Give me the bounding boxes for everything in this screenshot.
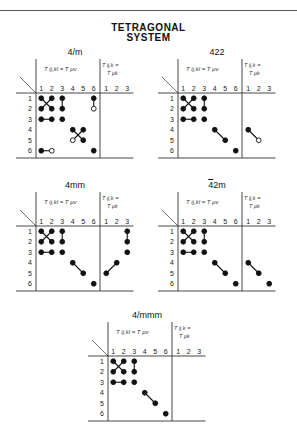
matrix-diagram: T ij,kl = T μνT ij,k =T μk12345612312345… bbox=[10, 180, 140, 298]
svg-text:2: 2 bbox=[28, 238, 32, 245]
filled-dot bbox=[60, 96, 65, 101]
filled-dot bbox=[49, 117, 54, 122]
svg-text:1: 1 bbox=[246, 218, 250, 225]
filled-dot bbox=[132, 369, 137, 374]
filled-dot bbox=[70, 260, 75, 265]
svg-text:2: 2 bbox=[122, 348, 126, 355]
top-rule bbox=[0, 10, 297, 11]
filled-dot bbox=[191, 117, 196, 122]
svg-text:5: 5 bbox=[28, 270, 32, 277]
filled-dot bbox=[153, 401, 158, 406]
svg-text:1: 1 bbox=[176, 348, 180, 355]
filled-dot bbox=[256, 271, 261, 276]
svg-text:1: 1 bbox=[246, 85, 250, 92]
title-line-2: SYSTEM bbox=[0, 32, 297, 43]
svg-text:3: 3 bbox=[202, 218, 206, 225]
filled-dot bbox=[104, 271, 109, 276]
svg-text:5: 5 bbox=[170, 270, 174, 277]
svg-text:2: 2 bbox=[115, 85, 119, 92]
svg-text:3: 3 bbox=[197, 348, 201, 355]
filled-dot bbox=[233, 148, 238, 153]
filled-dot bbox=[223, 138, 228, 143]
svg-text:1: 1 bbox=[181, 85, 185, 92]
svg-text:4: 4 bbox=[213, 218, 217, 225]
open-dot bbox=[256, 138, 261, 143]
svg-text:5: 5 bbox=[223, 218, 227, 225]
open-dot bbox=[91, 106, 96, 111]
panel-4: 4/mmmT ij,kl = T μνT ij,k =T μk123456123… bbox=[82, 310, 212, 428]
open-dot bbox=[70, 138, 75, 143]
matrix-diagram: T ij,kl = T μνT ij,k =T μk12345612312345… bbox=[10, 47, 140, 165]
svg-text:6: 6 bbox=[92, 218, 96, 225]
panel-2: 4mmT ij,kl = T μνT ij,k =T μk12345612312… bbox=[10, 180, 140, 298]
svg-text:T μk: T μk bbox=[179, 333, 190, 339]
svg-text:3: 3 bbox=[28, 116, 32, 123]
panel-1: 422T ij,kl = T μνT ij,k =T μk12345612312… bbox=[152, 47, 282, 165]
filled-dot bbox=[81, 127, 86, 132]
svg-text:2: 2 bbox=[257, 218, 261, 225]
svg-text:4: 4 bbox=[28, 259, 32, 266]
filled-dot bbox=[181, 117, 186, 122]
svg-text:T μk: T μk bbox=[249, 203, 260, 209]
filled-dot bbox=[233, 281, 238, 286]
filled-dot bbox=[267, 281, 272, 286]
svg-text:3: 3 bbox=[100, 379, 104, 386]
svg-text:3: 3 bbox=[170, 249, 174, 256]
svg-text:2: 2 bbox=[28, 105, 32, 112]
filled-dot bbox=[91, 96, 96, 101]
filled-dot bbox=[81, 138, 86, 143]
filled-dot bbox=[60, 229, 65, 234]
filled-dot bbox=[121, 369, 126, 374]
svg-text:T ij,kl = T μν: T ij,kl = T μν bbox=[186, 199, 218, 205]
svg-text:6: 6 bbox=[92, 85, 96, 92]
svg-text:3: 3 bbox=[132, 348, 136, 355]
svg-text:6: 6 bbox=[234, 85, 238, 92]
svg-text:3: 3 bbox=[60, 85, 64, 92]
svg-text:2: 2 bbox=[50, 218, 54, 225]
filled-dot bbox=[202, 96, 207, 101]
filled-dot bbox=[111, 369, 116, 374]
filled-dot bbox=[163, 411, 168, 416]
filled-dot bbox=[246, 127, 251, 132]
svg-text:4: 4 bbox=[71, 218, 75, 225]
svg-text:2: 2 bbox=[115, 218, 119, 225]
svg-text:T ij,kl = T μν: T ij,kl = T μν bbox=[186, 66, 218, 72]
matrix-diagram: T ij,kl = T μνT ij,k =T μk12345612312345… bbox=[82, 310, 212, 428]
svg-text:1: 1 bbox=[28, 95, 32, 102]
svg-text:3: 3 bbox=[28, 249, 32, 256]
svg-text:6: 6 bbox=[170, 280, 174, 287]
filled-dot bbox=[202, 239, 207, 244]
svg-text:T ij,k =: T ij,k = bbox=[244, 195, 261, 201]
svg-text:4: 4 bbox=[100, 389, 104, 396]
svg-text:2: 2 bbox=[170, 238, 174, 245]
svg-text:2: 2 bbox=[170, 105, 174, 112]
svg-text:4: 4 bbox=[143, 348, 147, 355]
filled-dot bbox=[39, 250, 44, 255]
svg-text:2: 2 bbox=[100, 368, 104, 375]
filled-dot bbox=[202, 229, 207, 234]
svg-text:1: 1 bbox=[39, 218, 43, 225]
svg-text:1: 1 bbox=[181, 218, 185, 225]
svg-text:T μk: T μk bbox=[107, 203, 118, 209]
svg-text:1: 1 bbox=[28, 228, 32, 235]
svg-text:3: 3 bbox=[125, 85, 129, 92]
filled-dot bbox=[191, 239, 196, 244]
svg-text:2: 2 bbox=[50, 85, 54, 92]
svg-text:6: 6 bbox=[28, 147, 32, 154]
filled-dot bbox=[60, 117, 65, 122]
filled-dot bbox=[181, 229, 186, 234]
filled-dot bbox=[212, 260, 217, 265]
svg-text:5: 5 bbox=[100, 400, 104, 407]
filled-dot bbox=[70, 127, 75, 132]
svg-text:T ij,kl = T μν: T ij,kl = T μν bbox=[44, 199, 76, 205]
filled-dot bbox=[181, 239, 186, 244]
filled-dot bbox=[121, 359, 126, 364]
filled-dot bbox=[181, 96, 186, 101]
filled-dot bbox=[49, 229, 54, 234]
svg-text:6: 6 bbox=[164, 348, 168, 355]
svg-text:5: 5 bbox=[170, 137, 174, 144]
filled-dot bbox=[111, 359, 116, 364]
svg-text:3: 3 bbox=[60, 218, 64, 225]
svg-text:4: 4 bbox=[213, 85, 217, 92]
filled-dot bbox=[246, 260, 251, 265]
